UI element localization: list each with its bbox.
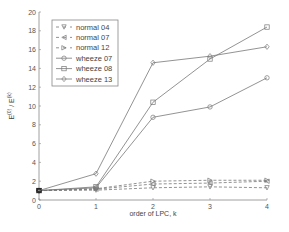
x-tick-label: 2 — [151, 203, 155, 210]
y-tick-label: 20 — [28, 9, 36, 16]
y-tick-label: 4 — [32, 159, 36, 166]
y-tick-label: 6 — [32, 140, 36, 147]
y-tick-label: 12 — [28, 84, 36, 91]
legend-label: normal 07 — [76, 33, 109, 42]
x-tick-label: 0 — [37, 203, 41, 210]
y-axis-title: E(0) / E(k) — [6, 92, 15, 119]
x-axis-title: order of LPC, k — [129, 210, 177, 217]
legend-label: wheeze 08 — [75, 64, 112, 73]
y-tick-label: 2 — [32, 178, 36, 185]
y-tick-label: 18 — [28, 27, 36, 34]
series-line — [39, 78, 267, 191]
y-tick-label: 14 — [28, 65, 36, 72]
x-tick-label: 1 — [94, 203, 98, 210]
series-wheeze-07 — [37, 76, 269, 193]
y-tick-label: 8 — [32, 121, 36, 128]
x-tick-label: 3 — [208, 203, 212, 210]
legend: normal 04normal 07normal 12wheeze 07whee… — [52, 20, 118, 86]
legend-label: normal 12 — [76, 43, 109, 52]
x-tick-label: 4 — [265, 203, 269, 210]
y-tick-label: 10 — [28, 103, 36, 110]
legend-label: wheeze 13 — [75, 75, 112, 84]
line-chart: 0123402468101214161820 normal 04normal 0… — [0, 0, 289, 232]
legend-label: wheeze 07 — [75, 54, 112, 63]
legend-label: normal 04 — [76, 23, 109, 32]
y-tick-label: 16 — [28, 46, 36, 53]
y-tick-label: 0 — [32, 197, 36, 204]
